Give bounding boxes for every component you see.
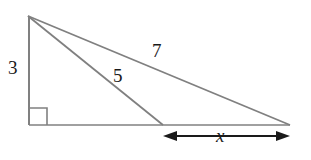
- cevian-line: [28, 16, 163, 125]
- hypotenuse-label: 7: [152, 41, 162, 60]
- hypotenuse-line: [28, 16, 290, 125]
- geometry-figure: 3 5 7 x: [0, 0, 311, 160]
- geometry-svg: [0, 0, 311, 160]
- arrow-right-icon: [276, 131, 290, 141]
- vertical-leg-label: 3: [8, 58, 18, 77]
- arrow-left-icon: [163, 131, 177, 141]
- x-dimension-label: x: [216, 126, 224, 145]
- cevian-label: 5: [113, 66, 123, 85]
- right-angle-marker-icon: [30, 108, 47, 125]
